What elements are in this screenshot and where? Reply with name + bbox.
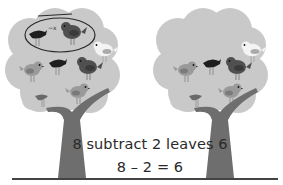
divider-line (12, 178, 278, 180)
svg-text:~x: ~x (48, 24, 57, 31)
caption-sentence: 8 subtract 2 leaves 6 (0, 136, 283, 152)
subtraction-illustration: ~x (0, 0, 283, 185)
left-tree: ~x (5, 8, 120, 178)
right-tree (153, 8, 268, 178)
caption-equation: 8 – 2 = 6 (0, 159, 283, 175)
